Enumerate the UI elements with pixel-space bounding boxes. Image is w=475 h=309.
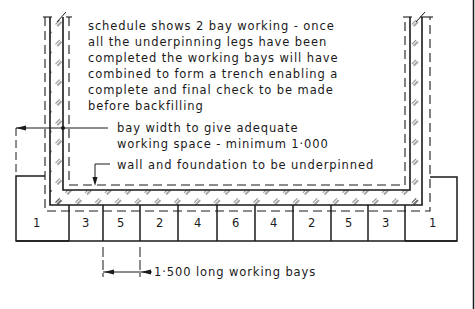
bay-label: 5 — [117, 216, 125, 230]
note-line: schedule shows 2 bay working - once — [88, 19, 335, 33]
bay-label: 3 — [382, 216, 390, 230]
arrow-left-icon — [104, 270, 114, 275]
note-line: all the underpinning legs have been — [88, 35, 327, 49]
bay-label: 2 — [156, 216, 164, 230]
bay-label: 1 — [429, 216, 437, 230]
arrow-left-icon — [141, 270, 151, 275]
arrow-down-icon — [93, 177, 98, 186]
bay-label: 3 — [82, 216, 90, 230]
bay-label: 2 — [308, 216, 316, 230]
bay-label: 1 — [33, 216, 41, 230]
bay-length-dimension: 1·500 long working bays — [103, 247, 316, 279]
working-bays — [16, 176, 457, 241]
arrow-left-icon — [16, 126, 26, 131]
note-line: combined to form a trench enabling a — [88, 67, 338, 81]
note-line: before backfilling — [88, 99, 204, 113]
bay-label: 5 — [345, 216, 353, 230]
note-line: completed the working bays will have — [88, 51, 339, 65]
schedule-note: schedule shows 2 bay working - once all … — [88, 19, 339, 113]
bay-length-label: 1·500 long working bays — [154, 265, 316, 279]
bay-label: 4 — [270, 216, 278, 230]
bay-label: 6 — [232, 216, 240, 230]
bay-label: 4 — [194, 216, 202, 230]
note-line: complete and final check to be made — [88, 83, 334, 97]
bay-width-label: bay width to give adequate — [117, 121, 298, 135]
wall-label-leader: wall and foundation to be underpinned — [93, 158, 375, 186]
bay-labels: 1 3 5 2 4 6 4 2 5 3 1 — [33, 216, 437, 230]
wall-label: wall and foundation to be underpinned — [117, 158, 374, 172]
bay-width-label: working space - minimum 1·000 — [117, 137, 329, 151]
dimension-dot-icon — [61, 126, 65, 130]
underpinning-diagram: 1 3 5 2 4 6 4 2 5 3 1 schedule shows 2 b… — [0, 0, 475, 309]
